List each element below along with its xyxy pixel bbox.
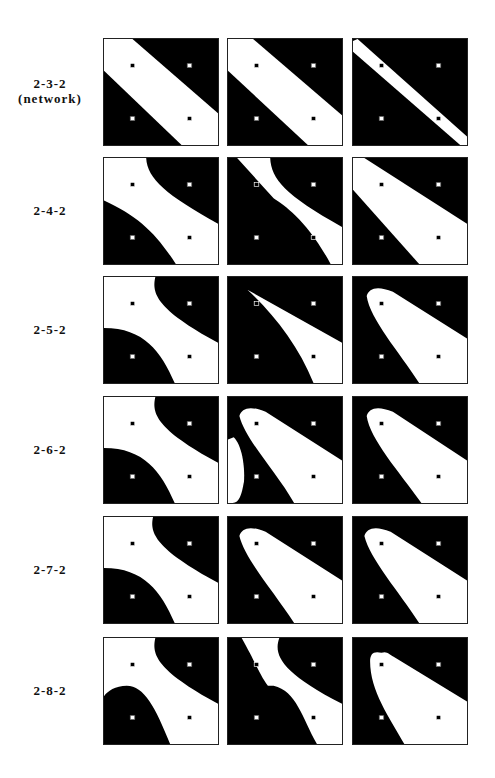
row-label-2-7-2: 2-7-2: [0, 562, 100, 577]
decision-region-panel: [352, 157, 468, 265]
decision-region-panel: [352, 516, 468, 624]
decision-region-panel: [227, 396, 343, 504]
decision-region-panel: [352, 276, 468, 384]
decision-region-panel: [227, 516, 343, 624]
decision-region-panel: [352, 38, 468, 146]
decision-region-panel: [103, 396, 219, 504]
row-label-text: 2-6-2: [33, 442, 66, 457]
decision-region-panel: [103, 516, 219, 624]
row-label-text: 2-8-2: [33, 683, 66, 698]
row-label-text: 2-7-2: [33, 562, 66, 577]
decision-region-panel: [352, 637, 468, 745]
row-label-2-5-2: 2-5-2: [0, 322, 100, 337]
decision-region-panel: [227, 276, 343, 384]
row-label-text: 2-4-2: [33, 203, 66, 218]
row-label-2-8-2: 2-8-2: [0, 683, 100, 698]
decision-region-panel: [227, 157, 343, 265]
row-label-text: 2-5-2: [33, 322, 66, 337]
row-label-text: 2-3-2: [0, 76, 100, 91]
decision-region-panel: [103, 637, 219, 745]
row-sublabel-text: (network): [0, 91, 100, 106]
decision-region-panel: [352, 396, 468, 504]
row-label-2-6-2: 2-6-2: [0, 442, 100, 457]
row-label-2-4-2: 2-4-2: [0, 203, 100, 218]
decision-region-panel: [103, 157, 219, 265]
decision-region-panel: [227, 637, 343, 745]
decision-region-panel: [227, 38, 343, 146]
decision-region-panel: [103, 38, 219, 146]
row-label-2-3-2: 2-3-2 (network): [0, 76, 100, 106]
decision-region-panel: [103, 276, 219, 384]
